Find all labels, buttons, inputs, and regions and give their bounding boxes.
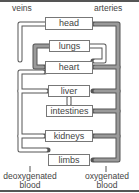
arteries-label: arteries — [94, 3, 122, 13]
veins-label: veins — [12, 3, 32, 13]
deoxygenated-blood-label: deoxygenated blood — [2, 172, 58, 190]
organ-head: head — [45, 17, 93, 30]
organ-lungs: lungs — [49, 40, 90, 52]
organ-heart: heart — [45, 61, 93, 74]
oxygenated-blood-label: oxygenated blood — [80, 172, 134, 190]
organ-limbs: limbs — [48, 154, 90, 166]
organ-liver: liver — [48, 85, 90, 97]
deoxygenated-line2: blood — [2, 181, 58, 190]
oxygenated-line2: blood — [80, 181, 134, 190]
organ-intestines: intestines — [46, 105, 93, 117]
organ-kidneys: kidneys — [45, 130, 93, 142]
